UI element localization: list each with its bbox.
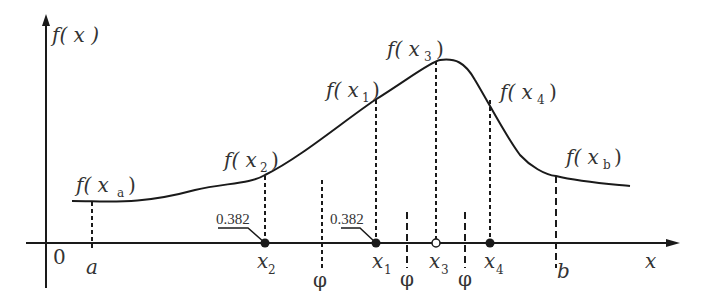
y-axis-arrow-icon (42, 14, 50, 26)
symmetry-mark-3: φ (458, 267, 472, 291)
svg-text:x: x (429, 249, 440, 273)
svg-text:2: 2 (268, 263, 276, 277)
svg-text:f( x: f( x (74, 173, 109, 197)
svg-text:f( x: f( x (564, 145, 599, 169)
svg-text:): ) (128, 173, 136, 197)
dashed-guides (92, 61, 556, 270)
svg-text:): ) (436, 37, 444, 61)
x-axis-label: x (645, 249, 656, 273)
svg-text:): ) (549, 80, 557, 104)
svg-text:1: 1 (384, 263, 392, 277)
fx4-label: f( x 4 ) (498, 80, 557, 107)
ratio-label-left: 0.382 (216, 211, 250, 227)
svg-text:x: x (484, 249, 495, 273)
x-axis-arrow-icon (666, 239, 680, 247)
origin-label: 0 (53, 245, 66, 269)
svg-text:f( x: f( x (498, 80, 533, 104)
fx1-label: f( x 1 ) (324, 78, 380, 105)
x4-label: x 4 (484, 249, 504, 277)
svg-text:x: x (257, 249, 268, 273)
golden-section-diagram: f( x ) 0 x a b x 2 x 1 x 3 x 4 φ φ φ 0.3… (0, 0, 701, 303)
svg-text:4: 4 (537, 93, 545, 107)
svg-text:3: 3 (424, 50, 432, 64)
fxb-label: f( x b ) (564, 145, 622, 172)
svg-text:f( x: f( x (324, 78, 359, 102)
svg-text:x: x (372, 249, 383, 273)
ratio-leaders (218, 228, 376, 243)
leader-left (218, 228, 265, 243)
fx2-label: f( x 2 ) (222, 148, 279, 175)
x3-label: x 3 (429, 249, 449, 277)
fx3-label: f( x 3 ) (385, 37, 444, 64)
svg-text:3: 3 (441, 263, 449, 277)
x1-label: x 1 (372, 249, 392, 277)
ratio-label-right: 0.382 (330, 211, 364, 227)
svg-text:b: b (603, 158, 611, 172)
svg-text:1: 1 (362, 91, 370, 105)
a-label: a (86, 255, 98, 279)
symmetry-mark-2: φ (400, 267, 414, 291)
svg-text:f( x: f( x (222, 148, 257, 172)
svg-text:): ) (372, 78, 380, 102)
svg-text:): ) (614, 145, 622, 169)
fxa-label: f( x a ) (74, 173, 136, 200)
svg-text:4: 4 (496, 263, 504, 277)
marker-x3 (432, 239, 440, 247)
x2-label: x 2 (257, 249, 276, 277)
svg-text:f( x: f( x (385, 37, 420, 61)
svg-text:a: a (117, 186, 124, 200)
svg-text:2: 2 (260, 161, 268, 175)
symmetry-mark-1: φ (313, 268, 327, 292)
leader-right (341, 228, 376, 243)
y-axis-label: f( x ) (50, 23, 99, 47)
svg-text:): ) (271, 148, 279, 172)
marker-x4 (486, 239, 495, 248)
b-label: b (557, 259, 570, 283)
